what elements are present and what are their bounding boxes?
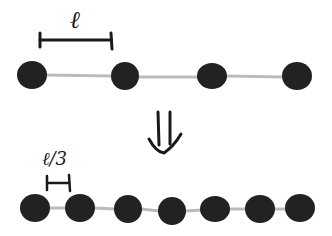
bead [20, 194, 50, 222]
top-spacing-bracket [40, 33, 112, 49]
bead [245, 195, 275, 223]
bead [114, 195, 142, 223]
bead [111, 62, 139, 90]
bottom-chain: ℓ/3 [20, 148, 315, 225]
top-chain: ℓ [17, 6, 312, 90]
double-down-arrow-icon [149, 112, 181, 153]
bottom-spacing-label: ℓ/3 [42, 148, 67, 169]
bead [158, 197, 186, 225]
bottom-spacing-bracket [47, 175, 70, 191]
bead [282, 62, 312, 90]
top-links [46, 75, 283, 77]
bead [285, 194, 315, 222]
diagram-canvas: ℓ ℓ/3 [0, 0, 332, 236]
bead [65, 194, 95, 222]
bead [197, 63, 227, 89]
bead [200, 196, 230, 222]
bead [17, 61, 47, 89]
top-spacing-label: ℓ [70, 6, 80, 34]
